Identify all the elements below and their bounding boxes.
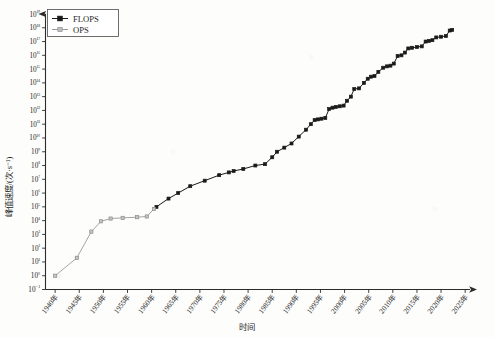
y-tick-label: 10⁰ bbox=[31, 271, 40, 281]
data-point-marker bbox=[324, 117, 327, 120]
y-tick-label: 10¹⁹ bbox=[30, 9, 41, 19]
x-tick-label: 1950年 bbox=[88, 292, 109, 315]
legend-label-flops: FLOPS bbox=[73, 14, 99, 24]
y-tick-label: 10⁷ bbox=[31, 174, 40, 184]
data-point-marker bbox=[451, 28, 454, 31]
x-tick-label: 1990年 bbox=[281, 292, 302, 315]
data-point-marker bbox=[54, 274, 57, 277]
data-point-marker bbox=[403, 51, 406, 54]
data-point-marker bbox=[377, 70, 380, 73]
data-point-marker bbox=[276, 150, 279, 153]
x-tick-label: 1965年 bbox=[160, 292, 181, 315]
x-tick-label: 1955年 bbox=[112, 292, 133, 315]
data-point-marker bbox=[370, 75, 373, 78]
x-tick-label: 2020年 bbox=[425, 292, 446, 315]
data-point-marker bbox=[328, 108, 331, 111]
data-point-marker bbox=[373, 74, 376, 77]
x-tick-label: 1940年 bbox=[39, 292, 60, 315]
y-tick-label: 10² bbox=[31, 243, 40, 253]
data-point-marker bbox=[99, 220, 102, 223]
y-tick-label: 10⁸ bbox=[31, 160, 40, 170]
x-axis-title: 时间 bbox=[239, 322, 255, 332]
data-point-marker bbox=[389, 64, 392, 67]
y-tick-label: 10⁴ bbox=[31, 216, 40, 226]
x-tick-label: 2015年 bbox=[401, 292, 422, 315]
x-tick-label: 2005年 bbox=[353, 292, 374, 315]
data-point-marker bbox=[242, 167, 245, 170]
data-point-marker bbox=[309, 123, 312, 126]
legend: FLOPS OPS bbox=[48, 10, 119, 37]
x-tick-label: 2025年 bbox=[449, 292, 470, 315]
data-point-marker bbox=[313, 119, 316, 122]
data-point-marker bbox=[232, 170, 235, 173]
data-point-marker bbox=[349, 95, 352, 98]
data-point-marker bbox=[386, 65, 389, 68]
data-point-marker bbox=[152, 207, 155, 210]
data-point-marker bbox=[90, 230, 93, 233]
data-point-marker bbox=[263, 163, 266, 166]
data-point-marker bbox=[440, 35, 443, 38]
data-point-marker bbox=[109, 217, 112, 220]
data-point-marker bbox=[167, 197, 170, 200]
data-series-layer bbox=[54, 28, 454, 277]
y-tick-label: 10¹³ bbox=[30, 92, 41, 102]
x-tick-label: 1975年 bbox=[208, 292, 229, 315]
data-point-marker bbox=[334, 105, 337, 108]
y-tick-label: 10¹⁶ bbox=[30, 50, 41, 60]
y-tick-label: 10¹⁴ bbox=[30, 78, 41, 88]
y-tick-label: 10³ bbox=[31, 229, 40, 239]
x-tick-label: 1980年 bbox=[232, 292, 253, 315]
peak-speed-log-chart: 10⁻¹10⁰10¹10²10³10⁴10⁵10⁶10⁷10⁸10⁹10¹⁰10… bbox=[0, 0, 494, 337]
y-tick-label: 10¹⁰ bbox=[29, 133, 40, 143]
data-point-marker bbox=[382, 66, 385, 69]
x-tick-label: 1970年 bbox=[184, 292, 205, 315]
y-tick-label: 10⁹ bbox=[31, 147, 40, 157]
data-point-marker bbox=[304, 128, 307, 131]
y-tick-label: 10⁵ bbox=[31, 202, 40, 212]
data-point-marker bbox=[290, 142, 293, 145]
data-point-marker bbox=[75, 256, 78, 259]
data-point-marker bbox=[283, 146, 286, 149]
data-point-marker bbox=[189, 185, 192, 188]
data-point-marker bbox=[121, 216, 124, 219]
legend-label-ops: OPS bbox=[73, 25, 89, 35]
data-point-marker bbox=[317, 118, 320, 121]
x-tick-label: 2000年 bbox=[329, 292, 350, 315]
y-tick-label: 10¹⁸ bbox=[30, 23, 41, 33]
data-point-marker bbox=[392, 62, 395, 65]
data-point-marker bbox=[358, 87, 361, 90]
data-point-marker bbox=[400, 54, 403, 57]
y-tick-label: 10¹⁷ bbox=[30, 36, 41, 46]
x-tick-label: 1985年 bbox=[256, 292, 277, 315]
chart-figure: 10⁻¹10⁰10¹10²10³10⁴10⁵10⁶10⁷10⁸10⁹10¹⁰10… bbox=[0, 0, 494, 337]
data-point-marker bbox=[331, 106, 334, 109]
svg-text:峰值速度/(次·s⁻¹): 峰值速度/(次·s⁻¹) bbox=[4, 157, 14, 218]
data-point-marker bbox=[218, 174, 221, 177]
data-point-marker bbox=[254, 164, 257, 167]
data-point-marker bbox=[420, 45, 423, 48]
y-tick-label: 10¹ bbox=[31, 257, 40, 267]
data-point-marker bbox=[428, 39, 431, 42]
y-tick-label: 10⁻¹ bbox=[28, 284, 40, 294]
data-point-marker bbox=[136, 216, 139, 219]
x-tick-label: 1960年 bbox=[136, 292, 157, 315]
x-tick-label: 2010年 bbox=[377, 292, 398, 315]
data-point-marker bbox=[297, 135, 300, 138]
data-point-marker bbox=[407, 47, 410, 50]
data-point-marker bbox=[353, 88, 356, 91]
data-point-marker bbox=[366, 77, 369, 80]
data-point-marker bbox=[271, 156, 274, 159]
data-point-marker bbox=[345, 99, 348, 102]
data-point-marker bbox=[320, 117, 323, 120]
legend-marker-ops bbox=[58, 27, 62, 31]
y-tick-label: 10⁶ bbox=[31, 188, 40, 198]
x-tick-label: 1995年 bbox=[305, 292, 326, 315]
data-point-marker bbox=[444, 35, 447, 38]
data-point-marker bbox=[431, 39, 434, 42]
data-point-marker bbox=[342, 104, 345, 107]
data-point-marker bbox=[145, 215, 148, 218]
data-point-marker bbox=[411, 46, 414, 49]
y-tick-label: 10¹⁵ bbox=[30, 64, 41, 74]
legend-marker-flops bbox=[58, 16, 63, 21]
data-point-marker bbox=[227, 171, 230, 174]
